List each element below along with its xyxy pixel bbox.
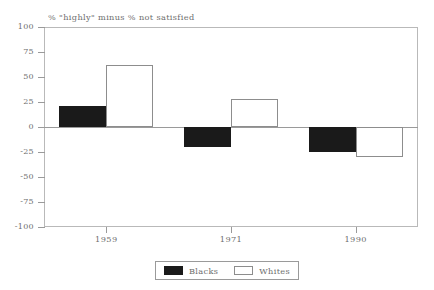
legend-label-whites: Whites [259, 266, 290, 276]
chart-title: % "highly" minus % not satisfied [48, 12, 195, 22]
bar-blacks-1971 [184, 127, 231, 147]
y-axis-tick [38, 202, 45, 203]
legend-entry-blacks: Blacks [164, 266, 218, 276]
y-axis-label: -50 [0, 172, 34, 181]
y-axis-tick [38, 152, 45, 153]
bar-blacks-1959 [59, 106, 106, 127]
legend-label-blacks: Blacks [189, 266, 218, 276]
y-axis-tick [38, 102, 45, 103]
bar-chart: % "highly" minus % not satisfied 1007550… [0, 0, 434, 290]
bar-whites-1959 [106, 65, 153, 127]
y-axis-label: 25 [0, 97, 34, 106]
legend-swatch-whites [234, 266, 253, 275]
x-axis-label: 1971 [201, 234, 261, 244]
x-axis-label: 1990 [326, 234, 386, 244]
x-axis-tick [106, 227, 107, 233]
y-axis-label: 0 [0, 122, 34, 131]
y-axis-tick [38, 227, 45, 228]
legend-entry-whites: Whites [234, 266, 290, 276]
bar-whites-1990 [356, 127, 403, 157]
legend-swatch-blacks [164, 266, 183, 275]
bar-whites-1971 [231, 99, 278, 127]
x-axis-tick [231, 227, 232, 233]
y-axis-tick [38, 27, 45, 28]
y-axis-label: -25 [0, 147, 34, 156]
y-axis-tick [38, 177, 45, 178]
x-axis-tick [356, 227, 357, 233]
bar-blacks-1990 [309, 127, 356, 152]
y-axis-label: -75 [0, 197, 34, 206]
y-axis-label: -100 [0, 222, 34, 231]
chart-legend: Blacks Whites [155, 261, 299, 280]
y-axis-tick [38, 77, 45, 78]
x-axis-label: 1959 [76, 234, 136, 244]
y-axis-tick [38, 52, 45, 53]
y-axis-label: 100 [0, 22, 34, 31]
y-axis-label: 75 [0, 47, 34, 56]
y-axis-label: 50 [0, 72, 34, 81]
